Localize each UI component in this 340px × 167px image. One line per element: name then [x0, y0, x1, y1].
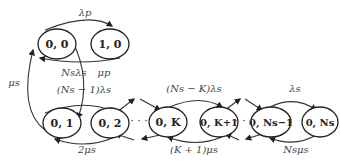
edge-01-to-00: [28, 50, 45, 130]
node-0-K1: 0, K+1: [200, 107, 238, 137]
svg-text:0, Ns−1: 0, Ns−1: [249, 117, 293, 129]
node-0-0: 0, 0: [38, 29, 76, 59]
node-0-2: 0, 2: [91, 108, 129, 138]
label-K1-mu-s: (K + 1)μs: [170, 144, 218, 155]
svg-text:0, 2: 0, 2: [99, 117, 122, 130]
svg-text:0, 1: 0, 1: [51, 117, 74, 130]
node-0-Ns1: 0, Ns−1: [249, 107, 293, 137]
label-mu-p: μp: [98, 67, 111, 78]
svg-text:0, K: 0, K: [156, 116, 181, 129]
node-0-Ns: 0, Ns: [302, 107, 338, 137]
svg-text:0, 0: 0, 0: [46, 38, 69, 51]
edge-0K-in-top: [140, 99, 160, 110]
ellipsis-2: · · ·: [235, 115, 252, 128]
label-lambda-s: λs: [288, 83, 300, 94]
state-transition-diagram: 0, 0 1, 0 0, 1 0, 2 0, K 0, K+1 0, Ns−1 …: [0, 0, 340, 167]
label-2-mu-s: 2μs: [77, 144, 96, 155]
edge-0Ns1-in-top: [245, 99, 262, 110]
label-Ns-mu-s: Nsμs: [282, 144, 309, 155]
edge-0K-out-bottom: [142, 135, 160, 139]
svg-text:1, 0: 1, 0: [99, 38, 122, 51]
label-Ns-lambda-s: Nsλs: [60, 67, 86, 78]
svg-text:0, Ns: 0, Ns: [306, 117, 335, 129]
node-0-1: 0, 1: [43, 108, 81, 138]
edge-0K-to-0K1: [170, 101, 222, 108]
ellipsis-1: · · ·: [130, 115, 147, 128]
edge-0K1-to-0K: [168, 137, 222, 143]
node-0-K: 0, K: [149, 107, 187, 137]
label-mu-s: μs: [8, 77, 20, 88]
label-lambda-p: λp: [78, 7, 92, 18]
label-Ns-K-lambda-s: (Ns − K)λs: [166, 83, 221, 94]
label-Ns-1-lambda-s: (Ns − 1)λs: [57, 84, 111, 95]
svg-text:0, K+1: 0, K+1: [200, 117, 238, 129]
node-1-0: 1, 0: [91, 29, 129, 59]
